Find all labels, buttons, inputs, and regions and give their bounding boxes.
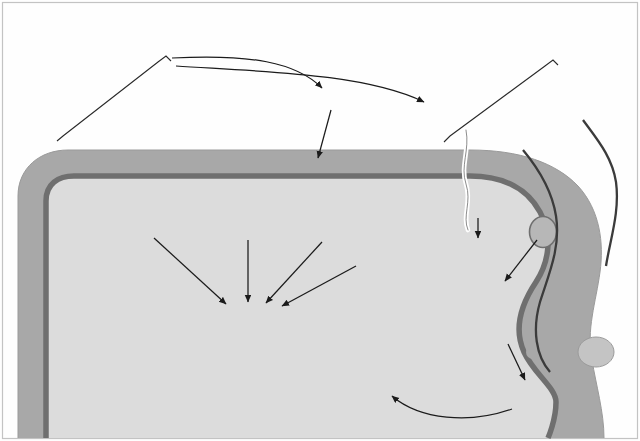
plant-cell [18,150,614,438]
haustorium-body [578,337,614,367]
cytoplasm-fill [46,176,556,438]
penetration-peg [530,217,557,248]
figure-canvas [0,0,640,441]
arrow-pathogen-to-effectors [176,66,424,102]
diagram-svg [0,0,640,441]
arrow-pathogen-to-enzymes [172,57,322,88]
leader-lines [57,56,558,142]
